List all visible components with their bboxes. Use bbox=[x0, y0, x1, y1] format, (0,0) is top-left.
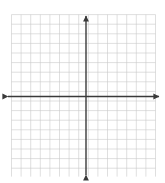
coordinate-grid-figure bbox=[0, 0, 165, 183]
coordinate-plane-graphic bbox=[0, 0, 165, 183]
